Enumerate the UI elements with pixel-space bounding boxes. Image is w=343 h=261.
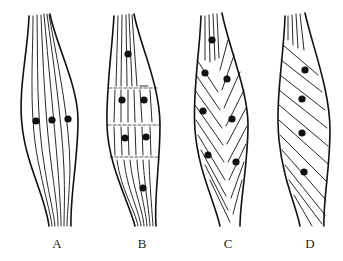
endplate-dot-c: [208, 36, 215, 43]
panel-label-a: A: [47, 236, 67, 252]
endplate-dot-b: [121, 134, 128, 141]
panel-label-b: B: [132, 236, 152, 252]
endplate-dot-c: [199, 107, 206, 114]
endplate-dot-b: [140, 96, 147, 103]
endplate-dot-a: [48, 116, 55, 123]
endplate-dot-a: [64, 115, 71, 122]
muscle-drawings: [0, 0, 343, 261]
endplate-dot-a: [32, 117, 39, 124]
endplate-dot-c: [223, 75, 230, 82]
endplate-dots: [32, 36, 308, 191]
muscle-b-drawing: [107, 14, 160, 226]
endplate-dot-d: [301, 66, 308, 73]
endplate-dot-b: [142, 133, 149, 140]
endplate-dot-c: [204, 151, 211, 158]
muscle-d-drawing: [278, 13, 330, 226]
endplate-dot-d: [298, 129, 305, 136]
muscle-fiber-diagram: A B C D: [0, 0, 343, 261]
endplate-dot-c: [201, 69, 208, 76]
muscle-c-drawing: [194, 13, 248, 226]
endplate-dot-c: [232, 158, 239, 165]
panel-label-c: C: [218, 236, 238, 252]
endplate-dot-b: [139, 184, 146, 191]
endplate-dot-b: [118, 96, 125, 103]
panel-label-d: D: [300, 236, 320, 252]
endplate-dot-d: [298, 95, 305, 102]
endplate-dot-b: [124, 50, 131, 57]
endplate-dot-d: [300, 168, 307, 175]
endplate-dot-c: [228, 115, 235, 122]
